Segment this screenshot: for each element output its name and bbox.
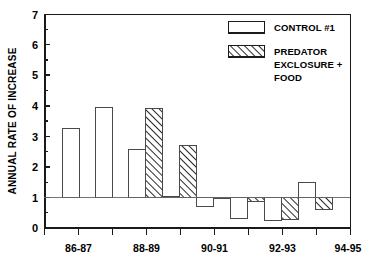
y-label-0: 0 xyxy=(32,222,38,234)
bar-control-88-89 xyxy=(129,150,146,198)
bar-control-91-92 xyxy=(231,197,248,218)
y-label-5: 5 xyxy=(32,69,38,81)
bar-treatment-88-89 xyxy=(146,108,163,197)
x-label-94-95: 94-95 xyxy=(335,242,362,254)
annual-rate-of-increase-bar-chart: 0 1 2 3 4 5 6 7 ANNUAL RATE OF INCREASE … xyxy=(0,0,365,262)
x-label-88-89: 88-89 xyxy=(133,242,160,254)
bar-treatment-93-94 xyxy=(316,197,333,209)
bar-control-93-94 xyxy=(299,182,316,197)
bar-treatment-89-90 xyxy=(180,145,197,197)
bar-treatment-91-92 xyxy=(248,197,265,201)
legend-swatch-treatment xyxy=(229,46,265,58)
legend-label-control: CONTROL #1 xyxy=(274,22,336,33)
chart-figure: 0 1 2 3 4 5 6 7 ANNUAL RATE OF INCREASE … xyxy=(0,0,365,262)
bar-control-86-87-b xyxy=(95,107,112,197)
bar-treatment-92-93 xyxy=(282,197,299,219)
legend-label-treatment-line1: PREDATOR xyxy=(274,46,327,57)
x-label-86-87: 86-87 xyxy=(65,242,92,254)
bar-control-86-87-a xyxy=(62,129,79,198)
x-label-90-91: 90-91 xyxy=(201,242,228,254)
legend-swatch-control xyxy=(229,22,265,34)
legend-label-treatment-line3: FOOD xyxy=(274,72,302,83)
y-label-7: 7 xyxy=(32,9,38,21)
bar-control-90-91 xyxy=(197,197,214,206)
y-label-2: 2 xyxy=(32,161,38,173)
y-label-6: 6 xyxy=(32,39,38,51)
y-label-3: 3 xyxy=(32,131,38,143)
chart-background xyxy=(0,0,365,262)
y-label-1: 1 xyxy=(32,192,38,204)
y-axis-title: ANNUAL RATE OF INCREASE xyxy=(7,47,18,194)
bar-control-92-93 xyxy=(265,197,282,220)
x-label-92-93: 92-93 xyxy=(269,242,296,254)
y-label-4: 4 xyxy=(32,100,39,112)
legend-label-treatment-line2: EXCLOSURE + xyxy=(274,59,343,70)
